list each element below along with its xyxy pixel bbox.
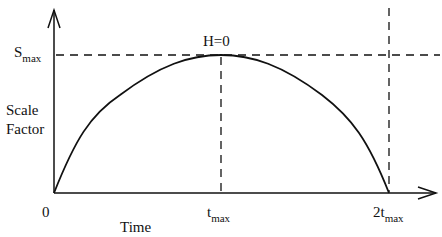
smax-label: Smax [14, 45, 41, 60]
scale-label: Scale [6, 103, 38, 118]
tmax-label: tmax [207, 205, 230, 220]
origin-label: 0 [42, 205, 50, 220]
time-label: Time [120, 220, 151, 235]
two-tmax-label: 2tmax [373, 205, 404, 220]
h-zero-annotation: H=0 [203, 34, 230, 49]
factor-label: Factor [6, 122, 44, 137]
